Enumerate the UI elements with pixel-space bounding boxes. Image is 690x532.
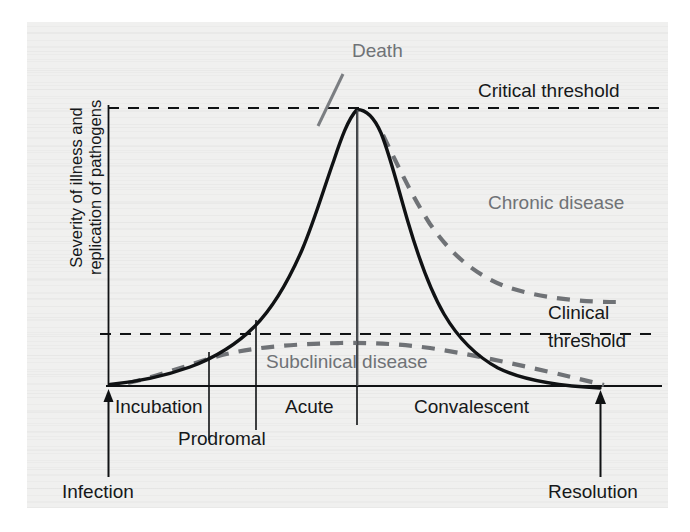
phase-label-convalescent: Convalescent <box>414 396 529 417</box>
figure-container: Severity of illness and replication of p… <box>0 0 690 532</box>
y-axis-label: Severity of illness and replication of p… <box>67 57 106 317</box>
clinical-threshold-label-line1: Clinical <box>548 302 609 323</box>
clinical-threshold-label-line2: threshold <box>548 330 626 351</box>
phase-label-incubation: Incubation <box>115 396 203 417</box>
y-axis-label-line1: Severity of illness and <box>67 57 86 317</box>
death-label: Death <box>352 40 403 61</box>
event-label-infection: Infection <box>62 481 134 502</box>
resolution-arrow <box>595 390 606 477</box>
subclinical-disease-label: Subclinical disease <box>266 351 428 372</box>
phase-label-acute: Acute <box>285 396 334 417</box>
infection-arrow <box>104 389 114 477</box>
severity-curve <box>110 110 600 389</box>
death-leader-line <box>318 74 343 126</box>
chronic-disease-label: Chronic disease <box>488 192 624 213</box>
y-axis-label-line2: replication of pathogens <box>86 57 105 317</box>
phase-label-prodromal: Prodromal <box>178 428 266 449</box>
chronic-disease-curve <box>383 135 618 302</box>
critical-threshold-label: Critical threshold <box>478 80 620 101</box>
event-label-resolution: Resolution <box>548 481 638 502</box>
